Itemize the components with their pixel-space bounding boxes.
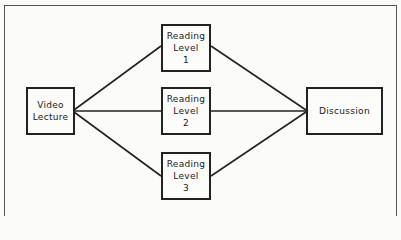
node-reading-level-1: Reading Level 1 (161, 24, 211, 72)
edge-video-r3 (74, 112, 161, 176)
node-label: 2 (167, 117, 206, 129)
node-label: Reading (167, 158, 206, 170)
node-discussion: Discussion (306, 87, 383, 135)
node-label: 3 (167, 182, 206, 194)
node-label: Level (167, 105, 206, 117)
node-label: Video (33, 99, 69, 111)
node-label: Reading (167, 30, 206, 42)
node-video-lecture: Video Lecture (26, 87, 75, 135)
node-reading-level-2: Reading Level 2 (161, 87, 211, 135)
edge-r1-discussion (211, 46, 306, 110)
node-label: 1 (167, 54, 206, 66)
node-label: Lecture (33, 111, 69, 123)
node-label: Level (167, 170, 206, 182)
node-label: Reading (167, 93, 206, 105)
edge-r3-discussion (211, 112, 306, 176)
node-label: Level (167, 42, 206, 54)
node-reading-level-3: Reading Level 3 (161, 152, 211, 200)
edge-video-r1 (74, 46, 161, 110)
node-label: Discussion (319, 105, 370, 117)
